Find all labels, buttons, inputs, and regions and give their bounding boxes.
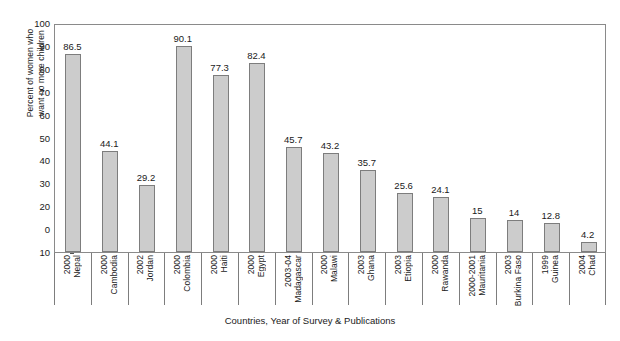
x-axis-separator [532,253,533,305]
x-axis-category-year: 2003-04 [284,255,293,287]
x-axis-separator [128,253,129,305]
x-axis-category: 2003Burkina Faso [496,253,533,309]
x-axis-category-year: 2000 [431,255,440,274]
y-axis-ticks: 1009080706050403020010 [20,0,50,341]
x-axis-category-country: Mauritania [478,255,487,296]
y-axis-tick-label: 30 [24,179,50,189]
bar [323,153,339,252]
x-axis-category-year: 2003 [394,255,403,274]
x-axis-category-year: 2000-2001 [468,255,477,297]
bar [65,54,81,252]
x-axis-category-year: 2004 [578,255,587,274]
bar-value-label: 86.5 [52,42,92,52]
bar [249,63,265,252]
y-axis-tick-label: 60 [24,111,50,121]
bar-value-label: 35.7 [347,158,387,168]
x-axis-separator [275,253,276,305]
x-axis-separator [385,253,386,305]
bar-value-label: 29.2 [126,173,166,183]
x-axis-category: 2000Rawanda [422,253,459,309]
bar-value-label: 14 [494,208,534,218]
x-axis-category: 2003-04Madagascar [275,253,312,309]
bar-value-label: 44.1 [89,139,129,149]
bar [470,218,486,252]
x-axis-category-year: 2003 [357,255,366,274]
bar-value-label: 43.2 [310,141,350,151]
bar [433,197,449,252]
y-axis-tick-label: 10 [24,248,50,258]
x-axis-category: 2000Haiti [201,253,238,309]
x-axis-category-country: Colombia [183,255,192,292]
x-axis-category: 2000Nepal [54,253,91,309]
x-axis-category: 2000Malawi [312,253,349,309]
x-axis-category: 2002Jordan [128,253,165,309]
x-axis-category-country: Guinea [551,255,560,283]
x-axis-category: 2003Ghana [348,253,385,309]
x-axis-category-country: Rawanda [441,255,450,292]
x-axis-category: 2000Egypt [238,253,275,309]
bar-chart: Percent of women who want no more childr… [0,0,620,341]
x-axis-category-year: 2000 [173,255,182,274]
x-axis-separator [569,253,570,305]
y-axis-tick-label: 50 [24,134,50,144]
x-axis-category-country: Jordan [146,255,155,282]
bar [286,147,302,252]
y-axis-tick-label: 80 [24,65,50,75]
bar-value-label: 82.4 [236,51,276,61]
x-axis-category: 1999Guinea [532,253,569,309]
bars-layer [55,25,605,252]
y-axis-tick-label: 90 [24,42,50,52]
bar-value-label: 24.1 [420,185,460,195]
bar [213,75,229,252]
bar [102,151,118,252]
bar [397,193,413,252]
bar [507,220,523,252]
bar [139,185,155,252]
x-axis-category-year: 2000 [63,255,72,274]
y-axis-tick-label: 70 [24,88,50,98]
bar-value-label: 45.7 [273,135,313,145]
x-axis-category-country: Chad [588,255,597,276]
bar [544,223,560,252]
x-axis-separator [91,253,92,305]
x-axis-separator [496,253,497,305]
x-axis-category-country: Haiti [220,255,229,273]
x-axis-category-country: Cambodia [110,255,119,295]
x-axis-category-country: Nepal [73,255,82,278]
x-axis-category-country: Malawi [330,255,339,282]
bar-value-label: 77.3 [200,63,240,73]
y-axis-tick-label: 20 [24,202,50,212]
x-axis-category: 2000-2001Mauritania [459,253,496,309]
bar-value-label: 90.1 [163,34,203,44]
x-axis-category-country: Etiopia [404,255,413,282]
x-axis-category-country: Burkina Faso [514,255,523,306]
y-axis-tick-label: 0 [24,225,50,235]
x-axis-category: 2000Colombia [164,253,201,309]
bar [360,170,376,252]
x-axis-separator [201,253,202,305]
x-axis-category-year: 2000 [210,255,219,274]
x-axis-category-year: 1999 [541,255,550,274]
x-axis-title: Countries, Year of Survey & Publications [0,315,620,326]
x-axis-separator [164,253,165,305]
x-axis-category-year: 2000 [100,255,109,274]
bar [581,242,597,252]
plot-area [54,24,606,253]
bar [176,46,192,252]
x-axis-category: 2000Cambodia [91,253,128,309]
x-axis-separator [422,253,423,305]
x-axis-category-country: Ghana [367,255,376,281]
x-axis-separator [312,253,313,305]
bar-value-label: 12.8 [531,211,571,221]
x-axis-separator [348,253,349,305]
x-axis-separator [238,253,239,305]
y-axis-tick-label: 40 [24,156,50,166]
bar-value-label: 25.6 [384,181,424,191]
bar-value-label: 15 [457,206,497,216]
x-axis-separator [605,253,606,305]
x-axis-category-country: Madagascar [294,255,303,303]
x-axis-category: 2004Chad [569,253,606,309]
y-axis-tick-label: 100 [24,19,50,29]
x-axis-category-country: Egypt [257,255,266,277]
x-axis-categories: 2000Nepal2000Cambodia2002Jordan2000Colom… [54,253,606,309]
